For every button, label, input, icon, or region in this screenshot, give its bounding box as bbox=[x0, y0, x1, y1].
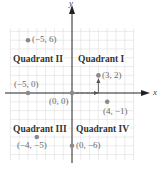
quadrant-iii-label: Quadrant III bbox=[12, 125, 68, 135]
point-label-0-neg6: (0, −6) bbox=[76, 141, 101, 150]
point-label-origin: (0, 0) bbox=[49, 97, 69, 106]
point-4-neg1 bbox=[105, 100, 110, 105]
point-origin bbox=[70, 91, 75, 96]
point-label-3-2: (3, 2) bbox=[102, 71, 122, 80]
point-label-neg4-neg5: (−4, −5) bbox=[17, 141, 47, 150]
x-axis-arrow-icon bbox=[141, 90, 150, 96]
up-arrow-icon bbox=[96, 78, 100, 83]
point-neg4-neg5 bbox=[35, 135, 40, 140]
point-3-2 bbox=[96, 73, 101, 78]
point-0-neg6 bbox=[70, 144, 75, 149]
point-label-4-neg1: (4, −1) bbox=[103, 107, 128, 116]
point-label-neg5-0: (−5, 0) bbox=[14, 80, 39, 89]
point-neg5-6 bbox=[26, 38, 31, 43]
point-label-neg5-6: (−5, 6) bbox=[32, 35, 57, 44]
y-axis-label: y bbox=[69, 0, 73, 8]
quadrant-ii-label: Quadrant II bbox=[12, 55, 64, 65]
path-arrows bbox=[76, 78, 100, 95]
point-neg5-0 bbox=[26, 91, 31, 96]
x-axis-label: x bbox=[153, 88, 157, 97]
quadrant-iv-label: Quadrant IV bbox=[75, 125, 130, 135]
quadrant-i-label: Quadrant I bbox=[77, 55, 125, 65]
